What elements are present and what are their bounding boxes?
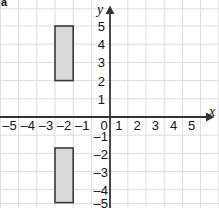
x-tick-label: –2: [57, 118, 71, 133]
x-tick-label: 5: [188, 118, 195, 133]
y-tick-label: –3: [94, 165, 108, 180]
y-tick-label: 3: [98, 55, 105, 70]
x-axis-label: x: [208, 104, 216, 119]
y-tick-label: 5: [98, 19, 105, 34]
x-tick-label: 3: [152, 118, 159, 133]
figure-panel: a: [0, 0, 219, 208]
y-tick-label: 2: [98, 74, 105, 89]
lower-rectangle: [55, 148, 73, 203]
x-tick-label: 4: [170, 118, 177, 133]
upper-rectangle: [55, 26, 73, 81]
x-tick-label: 2: [133, 118, 140, 133]
y-tick-label: –5: [94, 196, 108, 209]
y-axis-arrow: [106, 6, 115, 15]
y-axis-label: y: [95, 2, 104, 17]
x-tick-label: –4: [20, 118, 34, 133]
y-tick-label: –1: [94, 129, 108, 144]
y-tick-label: 1: [98, 92, 105, 107]
x-tick-label: –1: [75, 118, 89, 133]
x-tick-label: 1: [115, 118, 122, 133]
y-tick-label: 4: [98, 37, 105, 52]
x-tick-label: –3: [39, 118, 53, 133]
coordinate-plane: x y –5 –4 –3 –2 –1 0 1 2 3 4 5 5 4 3 2 1…: [0, 0, 219, 208]
x-tick-label: –5: [2, 118, 16, 133]
y-tick-label: –2: [94, 147, 108, 162]
